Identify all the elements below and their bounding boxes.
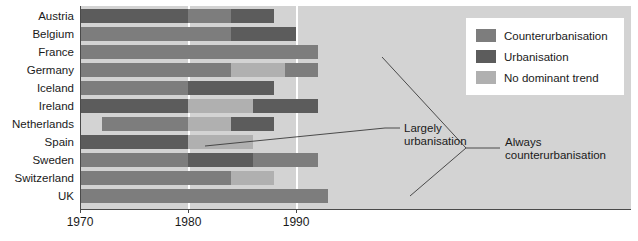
bar-track	[80, 171, 631, 185]
row-label-france: France	[0, 43, 74, 61]
bar-track	[80, 117, 631, 131]
x-tick-1970	[80, 209, 81, 213]
bar-segment-counter[interactable]	[80, 81, 188, 95]
bar-segment-counter[interactable]	[188, 9, 231, 23]
row-label-netherlands: Netherlands	[0, 115, 74, 133]
row-label-switzerland: Switzerland	[0, 169, 74, 187]
legend-swatch-no-dominant-trend	[476, 71, 496, 84]
chart-row: UK	[0, 187, 638, 205]
bar-segment-counter[interactable]	[80, 153, 188, 167]
row-label-germany: Germany	[0, 61, 74, 79]
bar-segment-notrend[interactable]	[188, 135, 253, 149]
bar-segment-urban[interactable]	[188, 153, 253, 167]
bar-segment-urban[interactable]	[80, 9, 188, 23]
row-label-ireland: Ireland	[0, 97, 74, 115]
bar-segment-urban[interactable]	[231, 27, 296, 41]
bar-track	[80, 99, 631, 113]
bar-segment-counter[interactable]	[80, 27, 231, 41]
bar-segment-counter[interactable]	[102, 117, 188, 131]
legend-item-no-dominant-trend[interactable]: No dominant trend	[476, 68, 616, 87]
legend-label-urbanisation: Urbanisation	[504, 51, 569, 63]
bar-segment-urban[interactable]	[253, 99, 318, 113]
row-label-austria: Austria	[0, 7, 74, 25]
x-tick-label-1970: 1970	[67, 215, 94, 229]
annotation-always-counterurbanisation-line2: counterurbanisation	[505, 149, 606, 162]
bar-segment-counter[interactable]	[80, 63, 231, 77]
legend-swatch-urbanisation	[476, 50, 496, 63]
chart-legend: Counterurbanisation Urbanisation No domi…	[466, 18, 624, 95]
x-tick-label-1980: 1980	[175, 215, 202, 229]
row-label-sweden: Sweden	[0, 151, 74, 169]
bar-track	[80, 189, 631, 203]
bar-segment-urban[interactable]	[231, 9, 274, 23]
chart-row: Switzerland	[0, 169, 638, 187]
row-label-belgium: Belgium	[0, 25, 74, 43]
annotation-always-counterurbanisation: Always counterurbanisation	[505, 136, 606, 162]
bar-segment-notrend[interactable]	[188, 117, 231, 131]
chart-row: Ireland	[0, 97, 638, 115]
bar-segment-urban[interactable]	[80, 135, 188, 149]
legend-item-counterurbanisation[interactable]: Counterurbanisation	[476, 26, 616, 45]
bar-segment-counter[interactable]	[80, 45, 318, 59]
bar-segment-urban[interactable]	[231, 117, 274, 131]
annotation-largely-urbanisation: Largely urbanisation	[404, 122, 467, 148]
legend-label-counterurbanisation: Counterurbanisation	[504, 30, 608, 42]
bar-segment-notrend[interactable]	[188, 99, 253, 113]
legend-item-urbanisation[interactable]: Urbanisation	[476, 47, 616, 66]
annotation-always-counterurbanisation-line1: Always	[505, 136, 606, 149]
chart-row: Netherlands	[0, 115, 638, 133]
bar-segment-counter[interactable]	[253, 153, 318, 167]
legend-label-no-dominant-trend: No dominant trend	[504, 72, 599, 84]
y-axis-line	[80, 6, 81, 210]
x-axis-line	[80, 209, 631, 210]
annotation-largely-urbanisation-line1: Largely	[404, 122, 467, 135]
row-label-iceland: Iceland	[0, 79, 74, 97]
annotation-largely-urbanisation-line2: urbanisation	[404, 135, 467, 148]
bar-segment-counter[interactable]	[80, 189, 328, 203]
bar-segment-notrend[interactable]	[231, 63, 285, 77]
row-label-spain: Spain	[0, 133, 74, 151]
bar-segment-counter[interactable]	[285, 63, 317, 77]
bar-segment-notrend[interactable]	[231, 171, 274, 185]
bar-segment-urban[interactable]	[188, 81, 274, 95]
counterurbanisation-timeline-chart: AustriaBelgiumFranceGermanyIcelandIrelan…	[0, 0, 638, 241]
x-tick-label-1990: 1990	[283, 215, 310, 229]
x-tick-1990	[296, 209, 297, 213]
row-label-uk: UK	[0, 187, 74, 205]
bar-segment-urban[interactable]	[80, 99, 188, 113]
bar-segment-counter[interactable]	[80, 171, 231, 185]
x-tick-1980	[188, 209, 189, 213]
legend-swatch-counterurbanisation	[476, 29, 496, 42]
